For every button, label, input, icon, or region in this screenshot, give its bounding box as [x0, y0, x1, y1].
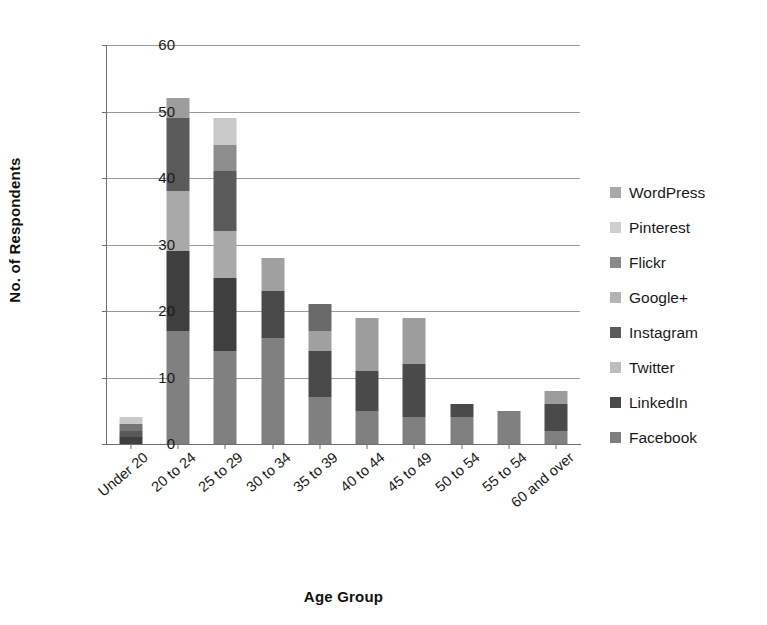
legend-item[interactable]: WordPress: [610, 175, 760, 210]
y-tick-label: 10: [135, 370, 175, 385]
bar-segment[interactable]: [403, 318, 426, 365]
plot-area: [107, 45, 580, 444]
bar-segment[interactable]: [356, 411, 379, 444]
x-tick-label: 30 to 34: [243, 449, 293, 495]
y-tick-label: 20: [135, 303, 175, 318]
legend-swatch-icon: [610, 292, 621, 303]
bar-segment[interactable]: [356, 318, 379, 371]
bar-segment[interactable]: [261, 258, 284, 291]
bar-segment[interactable]: [166, 331, 189, 444]
bar-stack[interactable]: [403, 318, 426, 444]
x-axis-title: Age Group: [107, 588, 580, 605]
bar-stack[interactable]: [308, 304, 331, 444]
legend-label: Facebook: [629, 429, 697, 447]
bar-segment[interactable]: [403, 417, 426, 444]
legend-item[interactable]: Flickr: [610, 245, 760, 280]
legend-item[interactable]: Pinterest: [610, 210, 760, 245]
y-axis-title: No. of Respondents: [6, 130, 23, 330]
bar-segment[interactable]: [545, 404, 568, 431]
chart-legend: WordPressPinterestFlickrGoogle+Instagram…: [610, 175, 760, 455]
legend-swatch-icon: [610, 397, 621, 408]
bar-slot: [485, 45, 532, 444]
bar-segment[interactable]: [308, 351, 331, 398]
bar-segment[interactable]: [214, 145, 237, 172]
bar-slot: [249, 45, 296, 444]
legend-item[interactable]: Google+: [610, 280, 760, 315]
legend-label: Google+: [629, 289, 688, 307]
bar-segment[interactable]: [308, 304, 331, 331]
bar-stack[interactable]: [450, 404, 473, 444]
legend-swatch-icon: [610, 362, 621, 373]
bar-slot: [438, 45, 485, 444]
x-tick-label: 50 to 54: [432, 449, 482, 495]
x-tick-label: 20 to 24: [148, 449, 198, 495]
x-tick-label: Under 20: [95, 449, 151, 500]
bar-slot: [202, 45, 249, 444]
bar-segment[interactable]: [119, 424, 142, 431]
bar-stack[interactable]: [498, 411, 521, 444]
legend-swatch-icon: [610, 257, 621, 268]
legend-swatch-icon: [610, 187, 621, 198]
legend-label: LinkedIn: [629, 394, 688, 412]
legend-label: Pinterest: [629, 219, 690, 237]
bar-segment[interactable]: [356, 371, 379, 411]
bar-segment[interactable]: [308, 331, 331, 351]
bar-stack[interactable]: [214, 118, 237, 444]
bar-segment[interactable]: [498, 411, 521, 444]
bar-slot: [391, 45, 438, 444]
bar-segment[interactable]: [119, 417, 142, 424]
x-tick-label: 40 to 44: [337, 449, 387, 495]
bar-segment[interactable]: [214, 231, 237, 278]
legend-label: Flickr: [629, 254, 666, 272]
legend-swatch-icon: [610, 432, 621, 443]
bar-segment[interactable]: [261, 291, 284, 338]
legend-label: Twitter: [629, 359, 675, 377]
bar-segment[interactable]: [261, 338, 284, 444]
bar-segment[interactable]: [450, 404, 473, 417]
x-tick-label: 45 to 49: [385, 449, 435, 495]
bar-stack[interactable]: [545, 391, 568, 444]
legend-label: WordPress: [629, 184, 705, 202]
y-tick-label: 30: [135, 237, 175, 252]
bar-stack[interactable]: [356, 318, 379, 444]
chart-container: No. of Respondents 0102030405060 Under 2…: [0, 0, 767, 625]
bar-slot: [533, 45, 580, 444]
bar-segment[interactable]: [214, 351, 237, 444]
y-tick-label: 50: [135, 104, 175, 119]
bar-segment[interactable]: [308, 397, 331, 444]
y-tick-label: 40: [135, 170, 175, 185]
bar-segment[interactable]: [403, 364, 426, 417]
y-tick-label: 60: [135, 37, 175, 52]
bar-segment[interactable]: [545, 391, 568, 404]
bar-segment[interactable]: [214, 118, 237, 145]
legend-swatch-icon: [610, 222, 621, 233]
bar-slot: [344, 45, 391, 444]
x-tick-labels: Under 2020 to 2425 to 2930 to 3435 to 39…: [107, 449, 580, 569]
legend-swatch-icon: [610, 327, 621, 338]
x-tick-label: 35 to 39: [290, 449, 340, 495]
bar-stack[interactable]: [166, 98, 189, 444]
bar-segment[interactable]: [450, 417, 473, 444]
legend-item[interactable]: Facebook: [610, 420, 760, 455]
legend-item[interactable]: Instagram: [610, 315, 760, 350]
bar-slot: [296, 45, 343, 444]
legend-label: Instagram: [629, 324, 698, 342]
legend-item[interactable]: Twitter: [610, 350, 760, 385]
bar-stack[interactable]: [261, 258, 284, 444]
y-tick-mark: [102, 444, 107, 445]
bar-segment[interactable]: [545, 431, 568, 444]
legend-item[interactable]: LinkedIn: [610, 385, 760, 420]
bar-segment[interactable]: [214, 171, 237, 231]
x-tick-label: 25 to 29: [195, 449, 245, 495]
bar-segment[interactable]: [214, 278, 237, 351]
